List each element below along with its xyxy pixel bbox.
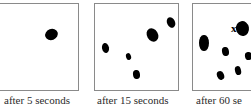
panel-after-15-seconds bbox=[94, 3, 179, 91]
particle-blob bbox=[43, 27, 59, 42]
particle-blob bbox=[215, 70, 225, 81]
particle-blob bbox=[199, 35, 208, 51]
particle-blob bbox=[165, 15, 177, 28]
x-marker-label: x bbox=[231, 23, 237, 34]
particle-blob bbox=[126, 52, 133, 60]
particle-blob bbox=[234, 65, 242, 75]
diffusion-time-series-figure: after 5 secondsafter 15 secondsxafter 60… bbox=[0, 0, 251, 110]
panel-caption: after 15 seconds bbox=[97, 94, 168, 107]
panel-after-5-seconds bbox=[0, 3, 79, 91]
panel-caption: after 5 seconds bbox=[4, 94, 70, 107]
panel-caption: after 60 se bbox=[196, 94, 242, 107]
particle-blob bbox=[132, 70, 140, 80]
particle-blob bbox=[245, 51, 251, 61]
particle-blob bbox=[144, 26, 160, 44]
particle-blob bbox=[101, 42, 110, 53]
panel-after-60-seconds: x bbox=[192, 3, 251, 91]
particle-blob bbox=[235, 20, 251, 37]
particle-blob bbox=[221, 47, 229, 57]
